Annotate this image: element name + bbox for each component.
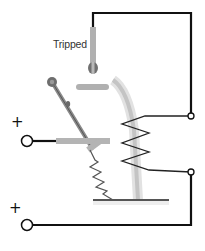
base-plate [93, 199, 169, 205]
connection-terminal-lower [188, 169, 194, 175]
wire-top-loop [93, 13, 191, 113]
bimetal-strip [113, 80, 138, 200]
input-terminal-top [22, 136, 33, 147]
plus-sign-top: + [11, 115, 24, 130]
connection-terminal-upper [188, 113, 194, 119]
tripped-label: Tripped [53, 38, 87, 50]
input-terminal-bottom [22, 220, 33, 231]
moving-contact-bar [56, 138, 110, 150]
return-spring [90, 150, 113, 200]
circuit-breaker-diagram: Tripped + + [0, 0, 205, 251]
plus-sign-bottom: + [9, 201, 22, 216]
upper-contact-bar [76, 84, 109, 90]
tripped-contact-post [88, 27, 98, 74]
